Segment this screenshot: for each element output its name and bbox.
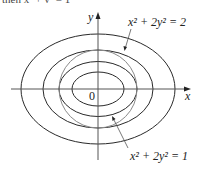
top-curve-label: x² + 2y² = 2 xyxy=(127,15,186,29)
level-curves-figure: x y 0 x² + 2y² = 2 x² + 2y² = 1 xyxy=(0,0,199,173)
bottom-curve-label: x² + 2y² = 1 xyxy=(129,149,188,163)
y-axis-arrow-icon xyxy=(96,12,101,19)
axes xyxy=(11,16,188,160)
top-leader-arrow-icon xyxy=(124,46,128,51)
x-axis-label: x xyxy=(184,89,191,103)
y-axis-label: y xyxy=(87,10,94,24)
origin-label: 0 xyxy=(89,89,95,103)
